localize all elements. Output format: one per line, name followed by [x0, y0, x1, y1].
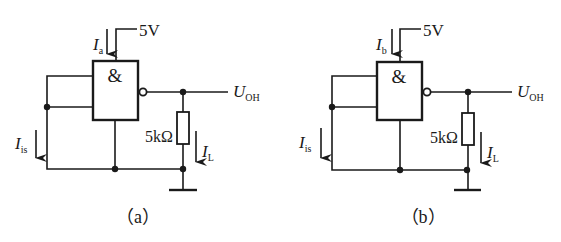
junction-dot	[464, 167, 470, 173]
junction-dot	[397, 167, 403, 173]
inversion-bubble-a	[139, 88, 146, 95]
circuit-a: 5V Ia & UOH 5kΩ IL Iis （a）	[14, 21, 260, 227]
junction-dot	[329, 104, 335, 110]
junction-dot	[180, 166, 186, 172]
junction-dot	[112, 166, 118, 172]
load-resistor-b	[462, 113, 474, 145]
caption-a: （a）	[116, 207, 160, 227]
junction-dot	[44, 104, 50, 110]
output-voltage-label-a: UOH	[233, 82, 260, 103]
caption-b: （b）	[401, 207, 446, 227]
resistor-value-b: 5kΩ	[430, 129, 458, 146]
load-resistor-a	[177, 112, 189, 144]
resistor-value-a: 5kΩ	[145, 128, 173, 145]
load-current-label-b: IL	[486, 143, 499, 164]
supply-voltage-label-b: 5V	[423, 21, 445, 40]
circuit-b: 5V Ib & UOH 5kΩ IL Iis （b）	[298, 21, 544, 227]
input-current-label-a: Iis	[14, 134, 27, 155]
gate-symbol-a: &	[108, 65, 123, 86]
input-current-label-b: Iis	[298, 133, 311, 154]
gate-symbol-b: &	[392, 66, 407, 87]
inversion-bubble-b	[423, 88, 430, 95]
load-current-label-a: IL	[201, 142, 214, 163]
supply-wire-a	[116, 29, 137, 61]
supply-voltage-label-a: 5V	[139, 21, 161, 40]
output-voltage-label-b: UOH	[517, 82, 544, 103]
supply-wire-b	[400, 29, 421, 62]
circuit-diagram: 5V Ia & UOH 5kΩ IL Iis （a）	[0, 0, 561, 242]
supply-current-label-b: Ib	[375, 35, 387, 56]
supply-current-label-a: Ia	[92, 35, 104, 56]
